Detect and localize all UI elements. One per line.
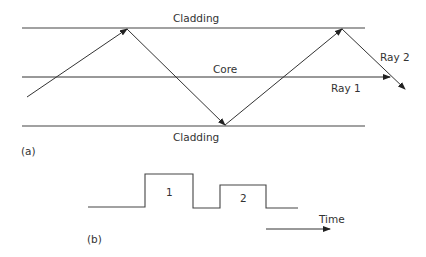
fiber-ray-diagram: Cladding Core Ray 1 Ray 2 Cladding (a) 1…	[0, 0, 426, 257]
ray-2-segment-1	[27, 29, 127, 97]
core-label: Core	[213, 63, 237, 75]
panel-a-label: (a)	[21, 145, 36, 157]
ray-1-label: Ray 1	[331, 82, 361, 94]
panel-a: Cladding Core Ray 1 Ray 2 Cladding (a)	[21, 12, 410, 157]
pulse-1-label: 1	[166, 186, 173, 198]
panel-b: 1 2 Time (b)	[87, 174, 345, 245]
bottom-cladding-label: Cladding	[173, 131, 219, 143]
top-cladding-label: Cladding	[173, 12, 219, 24]
time-label: Time	[318, 213, 345, 225]
pulse-waveform	[88, 174, 298, 208]
panel-b-label: (b)	[87, 233, 102, 245]
ray-2-label: Ray 2	[380, 51, 410, 63]
pulse-2-label: 2	[240, 192, 247, 204]
